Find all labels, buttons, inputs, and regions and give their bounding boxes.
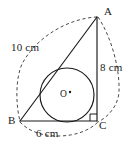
dimension-label-bc: 6 cm [36, 128, 59, 139]
dimension-label-ab: 10 cm [11, 42, 39, 53]
right-angle-marker [90, 114, 97, 121]
center-point-dot [69, 91, 71, 93]
vertex-label-b: B [8, 115, 16, 126]
dashed-arc-b-to-c [20, 122, 98, 136]
dimension-label-ac: 8 cm [100, 62, 123, 73]
vertex-label-c: C [99, 120, 107, 131]
circle-center-label-o: O [60, 90, 67, 100]
figure-canvas [0, 0, 133, 148]
vertex-label-a: A [104, 6, 112, 17]
geometry-figure: A B C O 10 cm 8 cm 6 cm [0, 0, 133, 148]
